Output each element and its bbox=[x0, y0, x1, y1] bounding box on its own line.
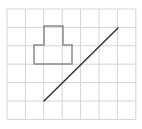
grid-diagram bbox=[0, 0, 142, 129]
t-shaped-polygon bbox=[34, 26, 72, 64]
